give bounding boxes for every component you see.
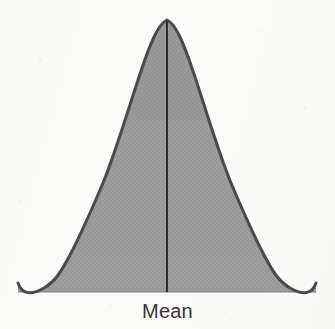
mean-axis-label: Mean bbox=[0, 299, 335, 323]
normal-distribution-figure: Mean bbox=[0, 0, 335, 329]
bell-curve-plot bbox=[0, 0, 335, 329]
